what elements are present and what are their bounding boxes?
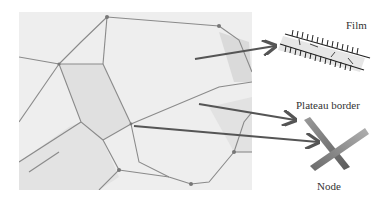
plateau-border-label: Plateau border — [296, 99, 360, 111]
film-schematic-icon — [278, 30, 370, 72]
node-label: Node — [317, 180, 341, 192]
node-arrow — [134, 126, 318, 142]
plateau-border-node-icon — [304, 117, 369, 171]
plateau-border-arrow — [199, 104, 295, 120]
film-label: Film — [346, 19, 367, 31]
film-arrow — [195, 46, 275, 59]
